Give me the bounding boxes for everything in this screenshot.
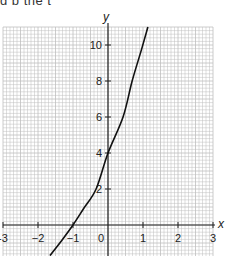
x-tick-label: −1: [67, 232, 80, 244]
graph: -3−2−10123 246810 x y: [0, 0, 226, 256]
x-tick-label: 0: [98, 232, 104, 244]
x-tick-label: 1: [140, 232, 146, 244]
axes: [3, 23, 215, 256]
x-tick-label: 2: [175, 232, 181, 244]
y-axis-label: y: [102, 10, 110, 24]
y-tick-label: 4: [96, 147, 102, 159]
x-tick-label: -3: [0, 232, 8, 244]
x-axis-label: x: [217, 217, 225, 231]
x-tick-label: −2: [32, 232, 45, 244]
y-tick-label: 8: [96, 75, 102, 87]
y-tick-label: 10: [90, 39, 102, 51]
x-tick-label: 3: [210, 232, 216, 244]
y-tick-label: 6: [96, 111, 102, 123]
